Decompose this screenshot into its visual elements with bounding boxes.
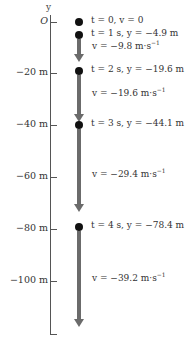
velocity-label: v = −9.8 m·s−1 (92, 39, 160, 51)
axis-tick (50, 281, 57, 282)
position-label: t = 4 s, y = −78.4 m (91, 220, 184, 230)
y-axis-line (50, 15, 51, 335)
position-label: t = 0, v = 0 (91, 15, 143, 25)
axis-tick (50, 229, 57, 230)
ball-position-dot (75, 223, 83, 231)
y-axis-label: y (46, 2, 51, 12)
ball-position-dot (75, 67, 83, 75)
ball-position-dot (75, 18, 83, 26)
axis-tick-label: −80 m (16, 222, 48, 233)
axis-bottom-tick (50, 334, 57, 335)
arrow-down-icon (74, 54, 84, 62)
ball-position-dot (75, 121, 83, 129)
axis-tick (50, 125, 57, 126)
velocity-label: v = −29.4 m·s−1 (92, 167, 166, 179)
velocity-label: v = −19.6 m·s−1 (92, 86, 166, 98)
velocity-label: v = −39.2 m·s−1 (92, 271, 166, 283)
axis-tick-label: O (40, 15, 48, 26)
axis-tick-label: −60 m (16, 170, 48, 181)
velocity-arrow-shaft (77, 129, 81, 206)
arrow-down-icon (74, 204, 84, 212)
position-label: t = 1 s, y = −4.9 m (91, 28, 178, 38)
axis-tick (50, 22, 57, 23)
axis-tick (50, 177, 57, 178)
position-label: t = 2 s, y = −19.6 m (91, 64, 184, 74)
axis-tick-label: −40 m (16, 118, 48, 129)
velocity-arrow-shaft (77, 75, 81, 116)
axis-tick (50, 73, 57, 74)
velocity-arrow-shaft (77, 231, 81, 321)
axis-tick-label: −100 m (10, 274, 48, 285)
position-label: t = 3 s, y = −44.1 m (91, 118, 184, 128)
axis-tick-label: −20 m (16, 66, 48, 77)
arrow-down-icon (74, 319, 84, 327)
ball-position-dot (75, 31, 83, 39)
